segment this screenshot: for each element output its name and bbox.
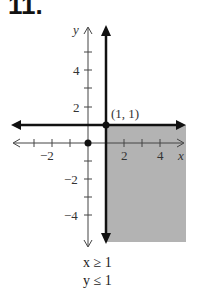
y-axis-label: y — [71, 22, 79, 37]
origin-point — [85, 140, 92, 147]
vertex-point — [103, 122, 110, 129]
y-tick-label: −4 — [64, 208, 78, 223]
inequality-1: x ≥ 1 — [83, 254, 112, 272]
x-axis-label: x — [177, 148, 184, 163]
vertex-label: (1, 1) — [111, 106, 139, 121]
y-tick-label: 4 — [73, 63, 80, 78]
x-tick-label: 4 — [157, 148, 164, 163]
inequality-2: y ≤ 1 — [83, 272, 112, 290]
y-tick-label: −2 — [64, 172, 78, 187]
inequality-graph: y x (1, 1) −2 2 4 4 2 −2 −4 — [0, 0, 197, 293]
x-tick-label: −2 — [40, 148, 54, 163]
y-tick-label: 2 — [73, 100, 80, 115]
x-tick-label: 2 — [121, 148, 128, 163]
y-axis — [84, 27, 92, 247]
